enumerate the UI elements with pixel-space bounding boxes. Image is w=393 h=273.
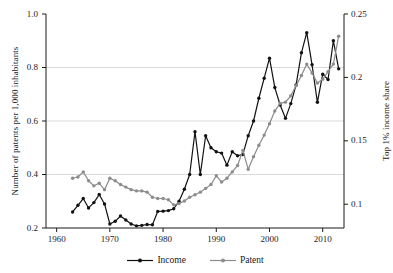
data-point [98,182,101,185]
data-point [310,71,313,74]
data-point [262,77,265,80]
data-point [161,197,164,200]
data-point [193,130,196,133]
data-point [129,222,132,225]
data-point [204,187,207,190]
data-point [305,31,308,34]
data-point [98,193,101,196]
chart-legend: IncomePatent [0,252,391,268]
legend-item-income[interactable]: Income [127,255,186,266]
data-point [135,224,138,227]
data-point [321,78,324,81]
data-point [177,202,180,205]
data-point [124,185,127,188]
data-point [337,67,340,70]
data-point [321,72,324,75]
data-point [156,197,159,200]
data-point [87,179,90,182]
data-point [257,97,260,100]
series-line-income [73,33,339,226]
data-point [129,188,132,191]
data-point [326,70,329,73]
data-point [252,155,255,158]
data-point [300,74,303,77]
data-point [284,100,287,103]
data-point [188,196,191,199]
data-point [113,220,116,223]
data-point [145,223,148,226]
data-point [225,177,228,180]
legend-swatch-patent [210,256,236,265]
data-point [236,154,239,157]
data-point [310,63,313,66]
legend-label: Income [157,255,186,266]
data-point [262,133,265,136]
data-point [257,144,260,147]
data-point [289,94,292,97]
data-series-layer [71,31,340,228]
data-point [183,188,186,191]
data-point [193,193,196,196]
data-point [140,224,143,227]
data-point [82,170,85,173]
data-point [92,201,95,204]
data-point [215,174,218,177]
legend-swatch-income [127,256,153,265]
data-point [337,34,340,37]
data-point [161,209,164,212]
data-point [183,199,186,202]
data-point [316,101,319,104]
data-point [145,190,148,193]
data-point [87,206,90,209]
data-point [231,170,234,173]
data-point [220,180,223,183]
data-point [140,189,143,192]
data-point [76,204,79,207]
data-point [305,62,308,65]
data-point [215,150,218,153]
data-point [231,150,234,153]
data-point [119,214,122,217]
data-point [151,196,154,199]
data-point [199,190,202,193]
axis-tickmarks [42,14,348,232]
data-point [151,223,154,226]
data-point [300,51,303,54]
data-point [268,56,271,59]
data-point [103,188,106,191]
data-point [172,203,175,206]
data-point [172,207,175,210]
data-point [332,39,335,42]
data-point [247,168,250,171]
data-point [204,134,207,137]
data-point [82,197,85,200]
data-point [294,84,297,87]
data-point [278,102,281,105]
series-line-patent [73,36,339,205]
data-point [103,202,106,205]
legend-item-patent[interactable]: Patent [210,255,264,266]
gridlines [46,68,344,175]
data-point [273,109,276,112]
data-point [199,173,202,176]
data-point [273,86,276,89]
data-point [124,218,127,221]
data-point [284,117,287,120]
data-point [135,189,138,192]
data-point [188,173,191,176]
data-point [167,198,170,201]
data-point [268,122,271,125]
data-point [252,119,255,122]
data-point [332,62,335,65]
data-point [108,222,111,225]
legend-label: Patent [240,255,264,266]
data-point [167,209,170,212]
data-point [92,184,95,187]
data-point [71,210,74,213]
data-point [241,149,244,152]
data-point [220,151,223,154]
data-point [76,175,79,178]
data-point [108,177,111,180]
